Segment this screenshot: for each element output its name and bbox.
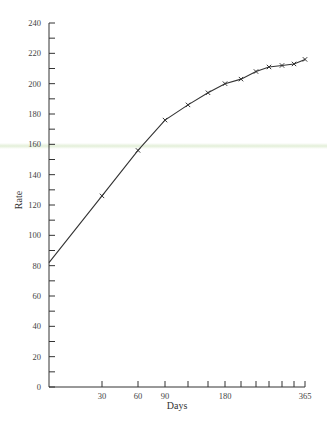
y-tick-label: 240 xyxy=(28,18,41,28)
x-tick-label: 365 xyxy=(299,391,312,401)
x-axis-title: Days xyxy=(167,400,188,411)
y-tick-label: 160 xyxy=(28,139,41,149)
x-tick-label: 60 xyxy=(134,391,143,401)
x-marker xyxy=(303,57,307,61)
x-tick-label: 180 xyxy=(219,391,232,401)
x-marker xyxy=(186,103,190,107)
series-line xyxy=(49,59,305,262)
y-tick-label: 220 xyxy=(28,48,41,58)
rate-vs-days-chart: 020406080100120140160180200220240 306090… xyxy=(0,0,327,428)
y-tick-label: 0 xyxy=(37,382,41,392)
y-tick-label: 180 xyxy=(28,109,41,119)
y-tick-label: 60 xyxy=(33,291,42,301)
y-tick-label: 140 xyxy=(28,170,41,180)
data-series xyxy=(49,57,307,262)
y-axis-title: Rate xyxy=(13,190,24,209)
y-tick-label: 100 xyxy=(28,230,41,240)
y-tick-label: 40 xyxy=(33,321,42,331)
y-tick-label: 80 xyxy=(33,261,42,271)
x-tick-label: 30 xyxy=(98,391,107,401)
x-marker xyxy=(163,118,167,122)
x-marker xyxy=(136,148,140,152)
x-marker xyxy=(100,194,104,198)
y-tick-label: 20 xyxy=(33,352,42,362)
y-tick-label: 200 xyxy=(28,79,41,89)
x-axis: 306090180365 xyxy=(49,381,311,401)
y-axis: 020406080100120140160180200220240 xyxy=(28,18,55,392)
x-marker xyxy=(206,91,210,95)
y-tick-label: 120 xyxy=(28,200,41,210)
